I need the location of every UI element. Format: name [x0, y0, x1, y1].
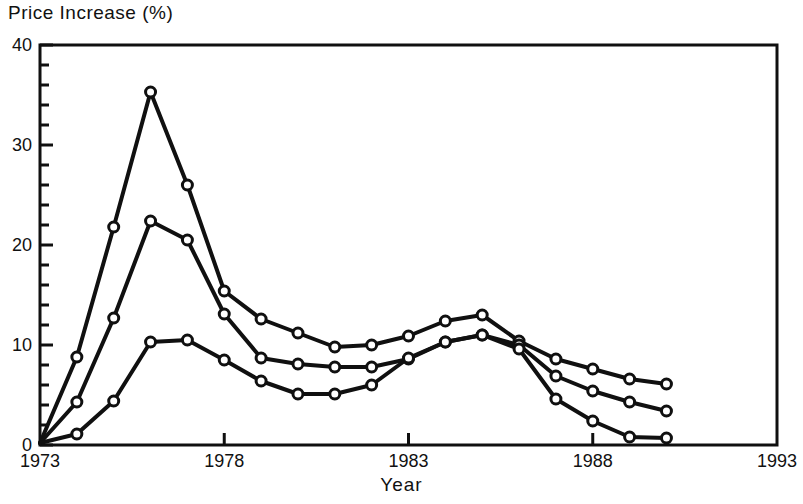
data-point-marker: [330, 342, 340, 352]
data-point-marker: [256, 353, 266, 363]
data-point-marker: [367, 362, 377, 372]
data-point-marker: [661, 406, 671, 416]
y-tick-label: 40: [12, 35, 32, 55]
data-point-marker: [477, 330, 487, 340]
data-point-marker: [440, 337, 450, 347]
series-line-series-lower: [40, 335, 666, 443]
data-point-marker: [146, 87, 156, 97]
chart-figure: Price Increase (%) 010203040 19731978198…: [0, 0, 803, 504]
data-point-marker: [367, 380, 377, 390]
x-tick-label: 1973: [20, 451, 60, 471]
x-tick-label: 1978: [204, 451, 244, 471]
data-point-marker: [182, 235, 192, 245]
data-point-marker: [72, 397, 82, 407]
y-tick-label: 20: [12, 235, 32, 255]
data-point-marker: [293, 389, 303, 399]
data-point-marker: [514, 344, 524, 354]
y-axis-tick-labels: 010203040: [12, 35, 32, 455]
data-point-marker: [330, 389, 340, 399]
data-point-marker: [588, 364, 598, 374]
data-point-marker: [72, 429, 82, 439]
data-point-marker: [588, 386, 598, 396]
data-point-marker: [256, 376, 266, 386]
x-tick-label: 1993: [757, 451, 797, 471]
data-point-marker: [109, 313, 119, 323]
data-point-marker: [625, 374, 635, 384]
data-point-marker: [256, 314, 266, 324]
data-point-marker: [182, 180, 192, 190]
data-point-marker: [625, 432, 635, 442]
data-point-marker: [146, 337, 156, 347]
data-point-marker: [219, 355, 229, 365]
data-point-marker: [551, 394, 561, 404]
y-tick-label: 30: [12, 135, 32, 155]
y-tick-label: 10: [12, 335, 32, 355]
data-point-marker: [588, 416, 598, 426]
data-series-lines: [40, 92, 666, 443]
data-point-marker: [146, 216, 156, 226]
data-point-marker: [404, 331, 414, 341]
data-point-marker: [625, 397, 635, 407]
line-chart-plot: 010203040 19731978198319881993: [0, 0, 803, 504]
data-point-marker: [551, 371, 561, 381]
data-series-markers: [72, 87, 672, 443]
x-tick-label: 1983: [388, 451, 428, 471]
data-point-marker: [219, 286, 229, 296]
data-point-marker: [182, 335, 192, 345]
data-point-marker: [293, 328, 303, 338]
data-point-marker: [661, 433, 671, 443]
x-axis-tick-labels: 19731978198319881993: [20, 451, 797, 471]
data-point-marker: [477, 310, 487, 320]
data-point-marker: [661, 379, 671, 389]
x-axis-title: Year: [0, 474, 803, 496]
data-point-marker: [219, 309, 229, 319]
data-point-marker: [72, 352, 82, 362]
data-point-marker: [109, 396, 119, 406]
data-point-marker: [440, 316, 450, 326]
data-point-marker: [293, 359, 303, 369]
x-tick-label: 1988: [573, 451, 613, 471]
data-point-marker: [109, 222, 119, 232]
data-point-marker: [551, 354, 561, 364]
data-point-marker: [367, 340, 377, 350]
x-axis-major-ticks: [224, 433, 593, 445]
data-point-marker: [404, 353, 414, 363]
data-point-marker: [330, 362, 340, 372]
